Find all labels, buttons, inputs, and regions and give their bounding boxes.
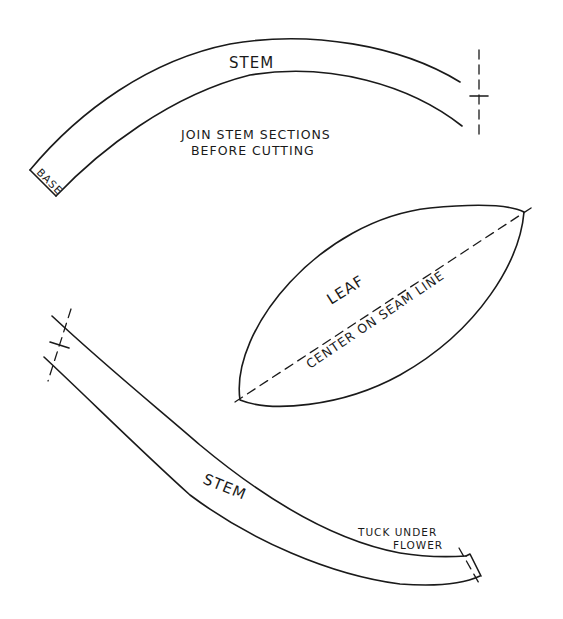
upper-stem-piece: BASE STEM JOIN STEM SECTIONS BEFORE CUTT… bbox=[30, 39, 488, 197]
upper-stem-join-mark-icon bbox=[470, 50, 488, 135]
pattern-sheet: BASE STEM JOIN STEM SECTIONS BEFORE CUTT… bbox=[0, 0, 563, 619]
join-note-line2: BEFORE CUTTING bbox=[191, 143, 315, 158]
tuck-note-line1: TUCK UNDER bbox=[357, 526, 437, 538]
lower-stem-piece: STEM TUCK UNDER FLOWER bbox=[44, 309, 481, 585]
leaf-seam-note: CENTER ON SEAM LINE bbox=[303, 268, 447, 372]
tuck-note-line2: FLOWER bbox=[393, 539, 443, 551]
join-note-line1: JOIN STEM SECTIONS bbox=[180, 127, 331, 142]
upper-stem-label: STEM bbox=[229, 54, 274, 72]
upper-stem-base-label: BASE bbox=[35, 166, 66, 197]
leaf-label: LEAF bbox=[324, 272, 368, 309]
lower-stem-label: STEM bbox=[201, 470, 250, 504]
leaf-piece: LEAF CENTER ON SEAM LINE bbox=[235, 205, 534, 406]
lower-stem-upper-edge bbox=[52, 316, 466, 557]
lower-stem-join-mark-icon bbox=[48, 309, 71, 381]
